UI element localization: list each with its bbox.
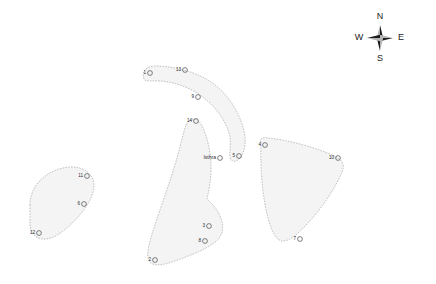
marker-label-12: 12 [30, 230, 36, 235]
marker-label-11: 11 [78, 173, 83, 178]
marker-label-14: 14 [187, 118, 193, 123]
compass-label-north: N [377, 11, 384, 21]
place-label-text-isthra: Isthra [203, 154, 216, 160]
west-oval-region[interactable] [30, 167, 94, 239]
map-marker-9[interactable]: 9 [191, 94, 200, 99]
marker-label-5: 5 [232, 153, 235, 158]
compass-label-west: W [355, 32, 364, 42]
map-marker-7[interactable]: 7 [293, 236, 302, 241]
marker-label-8: 8 [198, 238, 201, 243]
marker-circle-icon [196, 95, 201, 100]
marker-label-4: 4 [258, 142, 261, 147]
regions-layer [30, 66, 343, 265]
compass-label-south: S [377, 53, 383, 63]
marker-label-1: 1 [143, 70, 146, 75]
place-labels-layer: Isthra [203, 154, 222, 160]
marker-label-13: 13 [176, 67, 182, 72]
compass-rose: NESW [355, 11, 404, 63]
marker-label-2: 2 [148, 257, 151, 262]
place-label-isthra[interactable]: Isthra [203, 154, 222, 160]
marker-circle-icon [218, 156, 223, 161]
east-triangle-region[interactable] [260, 138, 343, 241]
map-svg: 1139145410711612382 Isthra NESW [0, 0, 436, 284]
marker-circle-icon [298, 237, 303, 242]
compass-arm-south-light [380, 38, 383, 51]
marker-label-3: 3 [202, 223, 205, 228]
central-peninsula-region[interactable] [148, 119, 223, 265]
marker-label-10: 10 [329, 155, 335, 160]
map-canvas: 1139145410711612382 Isthra NESW [0, 0, 436, 284]
marker-label-9: 9 [191, 94, 194, 99]
marker-label-7: 7 [293, 236, 296, 241]
compass-label-east: E [398, 32, 404, 42]
marker-label-6: 6 [77, 201, 80, 206]
